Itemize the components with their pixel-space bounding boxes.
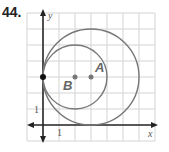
point-b-label: B [63, 78, 72, 93]
point-a [89, 75, 94, 80]
tangent-point [40, 74, 46, 80]
point-a-label: A [94, 60, 104, 75]
x-axis-label: x [147, 128, 153, 139]
coordinate-graph: A B y x 1 1 [0, 0, 169, 152]
y-axis-label: y [47, 10, 53, 21]
point-b [73, 75, 78, 80]
x-axis-left-arrow-icon [27, 122, 34, 128]
y-axis-down-arrow-icon [40, 136, 46, 143]
x-tick-label: 1 [57, 127, 62, 138]
y-tick-label: 1 [34, 104, 39, 115]
